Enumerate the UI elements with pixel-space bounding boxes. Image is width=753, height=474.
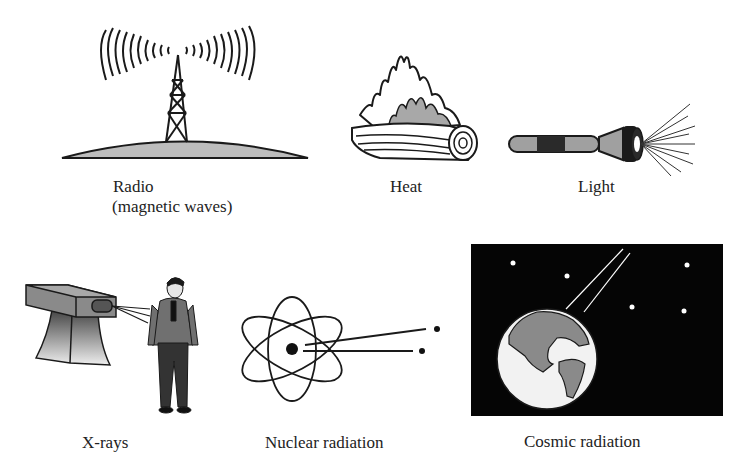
xrays-panel: X-rays (0, 255, 230, 465)
light-panel: Light (505, 90, 745, 200)
nuclear-panel: Nuclear radiation (230, 285, 470, 465)
xray-machine-icon (0, 255, 230, 425)
nuclear-label: Nuclear radiation (265, 432, 383, 453)
xrays-label: X-rays (82, 432, 128, 453)
radio-panel: Radio (magnetic waves) (0, 0, 330, 230)
burning-log-icon (350, 40, 490, 170)
radio-label: Radio (113, 176, 154, 197)
flashlight-icon (505, 90, 705, 170)
radio-sublabel: (magnetic waves) (112, 196, 232, 217)
cosmic-panel: Cosmic radiation (465, 240, 735, 465)
cosmic-label: Cosmic radiation (524, 431, 641, 452)
atom-icon (230, 285, 470, 415)
earth-in-space-icon (465, 240, 725, 420)
heat-label: Heat (390, 176, 422, 197)
light-label: Light (578, 176, 615, 197)
radio-tower-icon (0, 0, 330, 170)
heat-panel: Heat (350, 40, 490, 200)
